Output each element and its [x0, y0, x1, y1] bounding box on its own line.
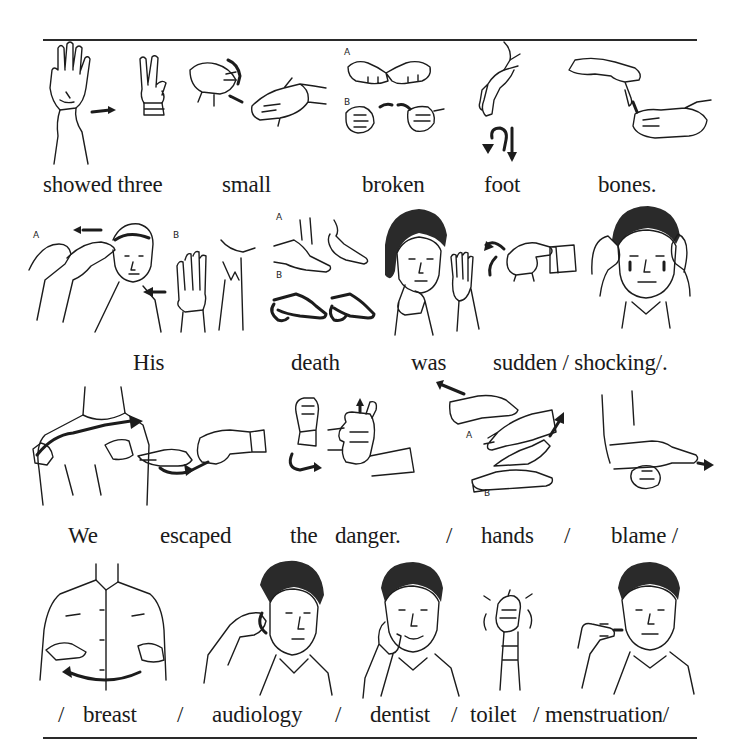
word-toilet: toilet: [470, 702, 516, 728]
broken-illustration: A B: [338, 45, 448, 145]
blame-illustration: [592, 385, 722, 500]
word-escaped: escaped: [160, 523, 231, 549]
slash: /: [446, 523, 452, 549]
shocking-illustration: [572, 200, 717, 330]
word-sudden-shocking: sudden / shocking/.: [493, 350, 667, 376]
danger-illustration: [280, 392, 430, 492]
label-b: B: [276, 270, 282, 280]
bones-illustration: [555, 50, 715, 150]
word-small: small: [222, 172, 271, 198]
death-illustration: A B: [270, 210, 380, 330]
word-was: was: [411, 350, 446, 376]
audiology-illustration: [200, 555, 340, 700]
label-a: A: [33, 230, 39, 240]
hands-illustration: A B: [432, 380, 592, 510]
menstruation-illustration: [570, 558, 710, 698]
word-hands: hands: [481, 523, 534, 549]
word-showed-three: showed three: [43, 172, 163, 198]
sudden-illustration: [480, 225, 580, 305]
label-a: A: [344, 47, 350, 57]
word-blame: blame /: [611, 523, 678, 549]
three-illustration: [130, 55, 180, 125]
top-rule: [43, 39, 697, 41]
word-dentist: dentist: [370, 702, 430, 728]
label-b: B: [344, 97, 350, 107]
word-menstruation: menstruation/: [545, 702, 669, 728]
label-b: B: [173, 230, 179, 240]
word-his: His: [133, 350, 164, 376]
word-bones: bones.: [598, 172, 656, 198]
label-a: A: [466, 430, 472, 440]
was-illustration: [375, 205, 490, 340]
word-danger: danger.: [335, 523, 401, 549]
word-death: death: [291, 350, 340, 376]
label-a: A: [276, 212, 282, 222]
escaped-illustration: [130, 410, 270, 490]
word-audiology: audiology: [212, 702, 302, 728]
slash: /: [58, 702, 64, 728]
slash: /: [451, 702, 457, 728]
word-we: We: [68, 523, 98, 549]
small-illustration: [180, 50, 330, 140]
bottom-rule: [43, 737, 697, 739]
slash: /: [533, 702, 539, 728]
showed-illustration: [30, 40, 140, 170]
word-the: the: [290, 523, 318, 549]
slash: /: [177, 702, 183, 728]
label-b: B: [484, 488, 490, 498]
word-breast: breast: [83, 702, 137, 728]
his-illustration: A B: [25, 210, 265, 335]
breast-illustration: [30, 560, 180, 700]
foot-illustration: [460, 40, 530, 165]
word-broken: broken: [362, 172, 425, 198]
slash: /: [335, 702, 341, 728]
word-foot: foot: [484, 172, 520, 198]
toilet-illustration: [478, 590, 548, 695]
dentist-illustration: [355, 558, 475, 698]
slash: /: [564, 523, 570, 549]
